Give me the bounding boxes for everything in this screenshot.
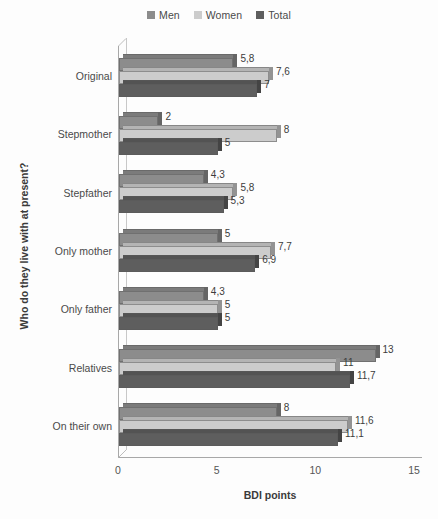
bar-total-2: 5,3 bbox=[119, 200, 423, 213]
bar-side-face bbox=[218, 229, 222, 242]
legend-swatch-total bbox=[256, 11, 264, 19]
bar-side-face bbox=[277, 125, 281, 138]
bar-side-face bbox=[158, 112, 162, 125]
category-label-only-father: Only father bbox=[20, 303, 112, 315]
bar-value-label: 11,6 bbox=[355, 415, 374, 426]
legend-entry-men: Men bbox=[147, 9, 180, 21]
bar-value-label: 5 bbox=[225, 137, 231, 148]
bar-value-label: 8 bbox=[284, 402, 290, 413]
bar-value-label: 7,7 bbox=[278, 241, 292, 252]
bar-total-5: 11,7 bbox=[119, 375, 423, 388]
bar-value-label: 11 bbox=[343, 357, 353, 368]
bar-chart: Men Women Total Who do they live with at… bbox=[0, 0, 438, 519]
y-axis-category-labels: OriginalStepmotherStepfatherOnly motherO… bbox=[20, 38, 112, 458]
category-label-relatives: Relatives bbox=[20, 362, 112, 374]
bar-front-face bbox=[119, 317, 218, 330]
bar-total-1: 5 bbox=[119, 142, 423, 155]
bar-side-face bbox=[218, 313, 222, 326]
bar-value-label: 5 bbox=[225, 228, 231, 239]
bar-value-label: 5,8 bbox=[240, 53, 254, 64]
bar-side-face bbox=[277, 403, 281, 416]
legend-label-men: Men bbox=[159, 9, 180, 21]
bar-value-label: 5,3 bbox=[231, 195, 245, 206]
bar-side-face bbox=[218, 300, 222, 313]
bar-side-face bbox=[218, 138, 222, 151]
chart-legend: Men Women Total bbox=[0, 9, 438, 21]
bar-side-face bbox=[233, 54, 237, 67]
axis-corner-top-icon bbox=[118, 38, 130, 50]
bar-side-face bbox=[338, 429, 342, 442]
bar-side-face bbox=[350, 371, 354, 384]
bar-side-face bbox=[224, 196, 228, 209]
bar-value-label: 11,7 bbox=[357, 370, 376, 381]
bar-front-face bbox=[119, 433, 338, 446]
x-tick-15: 15 bbox=[408, 464, 420, 476]
x-axis-line bbox=[118, 457, 422, 458]
legend-entry-women: Women bbox=[194, 9, 243, 21]
bar-front-face bbox=[119, 259, 255, 272]
x-axis-title: BDI points bbox=[118, 489, 422, 501]
bar-value-label: 5,8 bbox=[240, 182, 254, 193]
bar-side-face bbox=[255, 255, 259, 268]
legend-label-women: Women bbox=[206, 9, 243, 21]
axis-corner-bottom-icon bbox=[118, 446, 130, 458]
bar-value-label: 13 bbox=[383, 344, 394, 355]
bar-value-label: 7 bbox=[264, 79, 270, 90]
bar-side-face bbox=[376, 345, 380, 358]
x-axis-tick-labels: 051015 bbox=[118, 464, 422, 480]
legend-entry-total: Total bbox=[256, 9, 291, 21]
category-label-stepfather: Stepfather bbox=[20, 187, 112, 199]
bar-value-label: 5 bbox=[225, 299, 231, 310]
category-label-on-their-own: On their own bbox=[20, 420, 112, 432]
bar-value-label: 6,9 bbox=[262, 254, 276, 265]
x-tick-5: 5 bbox=[214, 464, 220, 476]
bar-front-face bbox=[119, 142, 218, 155]
bar-total-6: 11,1 bbox=[119, 433, 423, 446]
x-tick-10: 10 bbox=[309, 464, 321, 476]
category-label-only-mother: Only mother bbox=[20, 245, 112, 257]
bar-value-label: 5 bbox=[225, 312, 231, 323]
bar-side-face bbox=[336, 358, 340, 371]
category-label-stepmother: Stepmother bbox=[20, 128, 112, 140]
bar-front-face bbox=[119, 84, 257, 97]
bar-total-3: 6,9 bbox=[119, 259, 423, 272]
category-label-original: Original bbox=[20, 70, 112, 82]
plot-area: 5,87,672854,35,85,357,76,94,355131111,78… bbox=[118, 38, 422, 458]
bar-value-label: 2 bbox=[165, 111, 171, 122]
bar-front-face bbox=[119, 375, 350, 388]
bar-value-label: 4,3 bbox=[211, 286, 225, 297]
legend-swatch-men bbox=[147, 11, 155, 19]
legend-swatch-women bbox=[194, 11, 202, 19]
bar-front-face bbox=[119, 200, 224, 213]
bar-value-label: 4,3 bbox=[211, 169, 225, 180]
bar-total-0: 7 bbox=[119, 84, 423, 97]
bar-side-face bbox=[204, 170, 208, 183]
bar-side-face bbox=[257, 80, 261, 93]
x-tick-0: 0 bbox=[115, 464, 121, 476]
bar-value-label: 11,1 bbox=[345, 428, 364, 439]
bar-total-4: 5 bbox=[119, 317, 423, 330]
bar-side-face bbox=[204, 287, 208, 300]
bar-value-label: 7,6 bbox=[276, 66, 290, 77]
bar-value-label: 8 bbox=[284, 124, 290, 135]
legend-label-total: Total bbox=[268, 9, 291, 21]
